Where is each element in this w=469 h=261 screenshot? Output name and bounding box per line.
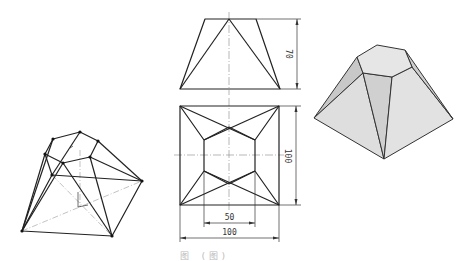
vertex-dot [140, 179, 143, 182]
top-view-edge [204, 171, 229, 184]
wireframe-isometric-view [20, 130, 143, 237]
front-face-edge [180, 19, 229, 89]
slant-edge [90, 157, 142, 181]
front-view: 70 [180, 12, 301, 95]
slant-edge [22, 139, 53, 231]
arrowhead [180, 237, 186, 240]
vertex-dot [96, 139, 99, 142]
arrowhead [204, 222, 210, 225]
top-view-edge [229, 127, 255, 140]
top-view-edge [204, 106, 279, 140]
top-view-edge [180, 106, 204, 205]
vertex-dot [88, 155, 91, 158]
vertex-dot [61, 161, 64, 164]
technical-drawing-canvas: 70 100 50 100 [0, 0, 469, 261]
arrowhead [296, 19, 299, 25]
axis-marker [78, 192, 88, 207]
front-trapezoid [180, 19, 280, 89]
slant-edge [98, 141, 142, 181]
vertex-dot [51, 137, 54, 140]
arrowhead [296, 83, 299, 89]
vertex-dot [50, 173, 53, 176]
top-view-edge [204, 127, 229, 140]
dimension-height-label: 70 [284, 49, 293, 59]
dimension-depth-label: 100 [283, 149, 292, 164]
arrowhead [273, 237, 279, 240]
top-view-edge [229, 171, 255, 184]
base-square [22, 175, 142, 236]
slant-edge [90, 157, 112, 236]
dimension-outer-width-label: 100 [222, 228, 237, 237]
vertex-dot [78, 130, 81, 133]
vertex-dot [43, 152, 46, 155]
top-view-edge [255, 106, 279, 205]
vertex-dot [20, 229, 23, 232]
figure-caption: 图 (图) [180, 249, 229, 261]
arrowhead [249, 222, 255, 225]
top-view-edge [204, 171, 279, 205]
outer-square [180, 106, 279, 205]
vertex-dot [110, 234, 113, 237]
shaded-solid-view [314, 45, 453, 159]
slant-edge [22, 163, 63, 231]
arrowhead [295, 199, 298, 205]
dimension-inner-width-label: 50 [225, 213, 235, 222]
slant-edge [63, 163, 112, 236]
arrowhead [295, 106, 298, 112]
top-view: 100 50 100 [174, 98, 301, 242]
face-right-front [384, 67, 453, 159]
front-face-edge [229, 19, 280, 89]
